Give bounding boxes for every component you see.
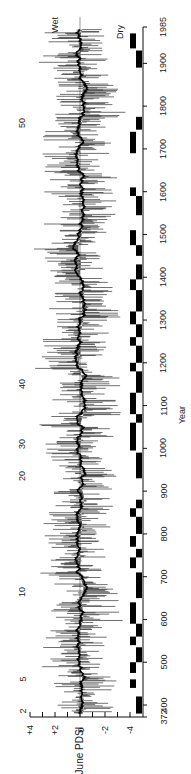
- regime-bar: [130, 508, 136, 517]
- year-tick-label: 600: [158, 612, 168, 627]
- regime-bar: [136, 517, 142, 534]
- event-marker-label: 2: [17, 709, 27, 714]
- year-tick-label: 1000: [158, 438, 168, 458]
- event-marker-label: 10: [17, 587, 27, 597]
- regime-bar: [136, 51, 142, 68]
- regime-bar: [130, 557, 136, 568]
- regime-bar: [136, 500, 142, 509]
- regime-bar: [130, 311, 136, 324]
- regime-bar: [136, 371, 142, 392]
- regime-bar: [136, 647, 142, 662]
- pdsi-tick-label: +4: [25, 725, 35, 735]
- regime-bar: [136, 624, 142, 637]
- year-tick-label: 1300: [158, 310, 168, 330]
- pdsi-tick-label: -4: [125, 726, 135, 734]
- regime-bar: [130, 679, 136, 688]
- year-tick-label: 1500: [158, 224, 168, 244]
- year-tick-label: 400: [158, 698, 168, 713]
- regime-bar: [136, 324, 142, 337]
- regime-bar: [130, 393, 136, 414]
- regime-bar: [136, 696, 142, 713]
- wet-label: Wet: [50, 17, 60, 33]
- year-tick-label: 1200: [158, 353, 168, 373]
- year-tick-label: 1100: [158, 396, 168, 415]
- regime-bar: [136, 346, 142, 363]
- plot-area: [30, 17, 147, 717]
- year-tick-label: 1600: [158, 182, 168, 202]
- regime-bar: [130, 602, 136, 623]
- regime-bar: [136, 117, 142, 130]
- regime-bar: [136, 264, 142, 279]
- year-tick-label: 1400: [158, 267, 168, 287]
- regime-bar: [130, 337, 136, 346]
- year-tick-label: 700: [158, 569, 168, 584]
- annual-pdsi-series: [34, 30, 126, 714]
- regime-bar: [130, 662, 136, 673]
- year-tick-label: 1900: [158, 53, 168, 73]
- year-tick-label: 800: [158, 526, 168, 541]
- event-marker-label: 30: [17, 439, 27, 449]
- regime-bar: [130, 423, 136, 451]
- regime-bar: [130, 33, 136, 48]
- regime-bar: [130, 279, 136, 290]
- regime-bar: [136, 414, 142, 423]
- event-marker-label: 50: [17, 118, 27, 128]
- regime-bar: [136, 572, 142, 598]
- regime-bar: [130, 637, 136, 646]
- pdsi-tick-label: +2: [50, 725, 60, 735]
- regime-bar: [136, 549, 142, 558]
- year-tick-label: 900: [158, 484, 168, 499]
- dry-label: Dry: [115, 25, 125, 39]
- regime-bar: [136, 245, 142, 256]
- year-tick-label: 1985: [158, 17, 168, 37]
- event-marker-label: 5: [17, 677, 27, 682]
- regime-bar: [130, 363, 136, 372]
- regime-bar: [136, 453, 142, 479]
- year-axis-title: Year: [177, 406, 187, 424]
- regime-bar: [136, 196, 142, 215]
- pdsi-tick-label: -2: [100, 726, 110, 734]
- regime-bar: [130, 230, 136, 245]
- event-marker-label: 20: [17, 471, 27, 481]
- year-tick-label: 1700: [158, 139, 168, 159]
- regime-bar: [130, 132, 136, 153]
- regime-bar: [130, 536, 136, 547]
- event-marker-label: 40: [17, 379, 27, 389]
- pdsi-axis-title: June PDSI: [74, 726, 85, 774]
- regime-bar: [136, 290, 142, 311]
- year-tick-label: 1800: [158, 96, 168, 116]
- year-tick-label: 500: [158, 655, 168, 670]
- regime-bar: [130, 187, 136, 196]
